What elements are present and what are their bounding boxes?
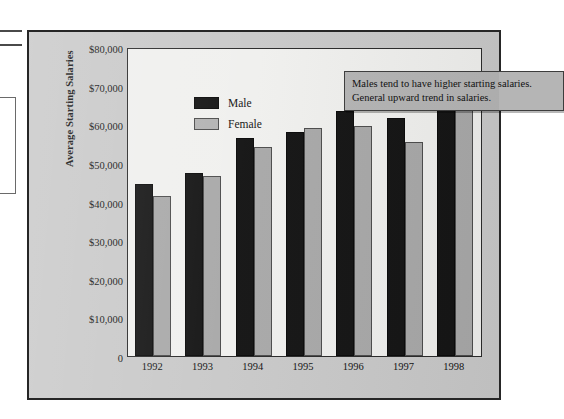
bar-female-1996 xyxy=(354,126,372,356)
bar-male-1993 xyxy=(185,173,203,356)
bar-male-1994 xyxy=(236,138,254,356)
bar-group xyxy=(128,49,178,356)
plot-area: 0$10,000$20,000$30,000$40,000$50,000$60,… xyxy=(127,48,482,357)
legend-swatch-female-icon xyxy=(194,118,219,130)
bar-male-1995 xyxy=(286,132,304,356)
legend-label-male: Male xyxy=(228,97,252,109)
y-axis-tick-label: $70,000 xyxy=(89,82,123,93)
y-axis-tick-label: $60,000 xyxy=(89,121,123,132)
page-margin-rule-top xyxy=(0,30,22,32)
legend-item-female: Female xyxy=(194,118,262,130)
annotation-callout: Males tend to have higher starting salar… xyxy=(344,71,564,111)
bar-male-1996 xyxy=(336,111,354,356)
y-axis-title: Average Starting Salaries xyxy=(64,17,78,167)
bar-female-1995 xyxy=(304,128,322,356)
x-axis-tick-label: 1997 xyxy=(393,361,414,372)
x-axis-tick-label: 1994 xyxy=(242,361,263,372)
figure-frame: Average Starting Salaries 0$10,000$20,00… xyxy=(27,30,501,400)
y-axis-tick-label: $40,000 xyxy=(89,198,123,209)
x-axis-tick-label: 1993 xyxy=(192,361,213,372)
chart-area: 0$10,000$20,000$30,000$40,000$50,000$60,… xyxy=(100,48,484,374)
annotation-line-2: General upward trend in salaries. xyxy=(352,91,556,105)
bar-female-1992 xyxy=(153,196,171,356)
bar-female-1997 xyxy=(405,142,423,356)
chart-legend: Male Female xyxy=(194,97,262,139)
bar-group xyxy=(229,49,279,356)
annotation-line-1: Males tend to have higher starting salar… xyxy=(352,77,556,91)
page-margin-rule-bottom xyxy=(0,44,22,46)
y-axis-tick-label: $80,000 xyxy=(89,44,123,55)
x-axis-tick-label: 1992 xyxy=(142,361,163,372)
y-axis-tick-label: $30,000 xyxy=(89,237,123,248)
x-axis-tick-label: 1996 xyxy=(343,361,364,372)
bar-female-1994 xyxy=(254,147,272,356)
legend-swatch-male-icon xyxy=(194,97,219,109)
bar-female-1998 xyxy=(455,105,473,356)
bar-male-1998 xyxy=(437,93,455,356)
y-axis-tick-label: $20,000 xyxy=(89,275,123,286)
y-axis-tick-label: 0 xyxy=(118,353,123,364)
bar-group xyxy=(178,49,228,356)
bar-male-1997 xyxy=(387,118,405,356)
y-axis-tick-label: $50,000 xyxy=(89,159,123,170)
legend-item-male: Male xyxy=(194,97,262,109)
bar-female-1993 xyxy=(203,176,221,356)
x-axis-tick-label: 1995 xyxy=(293,361,314,372)
legend-label-female: Female xyxy=(228,118,262,130)
bar-group xyxy=(279,49,329,356)
y-axis-tick-label: $10,000 xyxy=(89,314,123,325)
x-axis-tick-label: 1998 xyxy=(443,361,464,372)
page-margin-box xyxy=(0,97,16,194)
bar-male-1992 xyxy=(135,184,153,356)
